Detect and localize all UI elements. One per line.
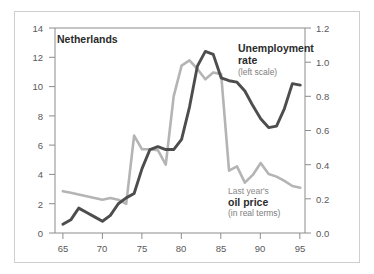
left-axis-tick-label: 0	[21, 229, 43, 239]
left-axis-tick-label: 2	[21, 200, 43, 210]
left-axis-tick-label: 10	[21, 82, 43, 92]
chart-title: Netherlands	[57, 33, 118, 45]
annotation-oil-line1: oil price	[228, 196, 280, 208]
x-axis-tick-label: 70	[92, 244, 112, 254]
right-axis-tick-label: 1.0	[316, 58, 329, 68]
annotation-unemployment-line2: rate	[238, 54, 314, 66]
annotation-oil-terms-note: (in real terms)	[228, 208, 280, 218]
right-axis-tick-label: 0.6	[316, 126, 329, 136]
series-line-oil-price	[63, 60, 300, 204]
x-axis-tick-label: 90	[250, 244, 270, 254]
right-axis-tick-label: 1.2	[316, 24, 329, 34]
annotation-unemployment-line1: Unemployment	[238, 42, 314, 54]
annotation-oil-prefix: Last year's	[228, 186, 280, 196]
right-axis-tick-label: 0.8	[316, 92, 329, 102]
x-axis-tick-label: 85	[211, 244, 231, 254]
x-axis-tick-label: 95	[290, 244, 310, 254]
chart-figure: 14 12 10 8 6 4 2 0 1.2 1.0 0.8 0.6 0.4 0…	[0, 0, 374, 274]
annotation-unemployment-rate: Unemployment rate (left scale)	[238, 42, 314, 77]
left-axis-tick-label: 4	[21, 170, 43, 180]
left-axis-ticks	[49, 28, 55, 233]
right-axis-tick-label: 0.0	[316, 229, 329, 239]
x-axis-tick-label: 80	[171, 244, 191, 254]
x-axis-tick-label: 75	[132, 244, 152, 254]
x-axis-tick-label: 65	[53, 244, 73, 254]
bottom-axis-ticks	[63, 233, 300, 239]
left-axis-tick-label: 6	[21, 141, 43, 151]
annotation-oil-price: Last year's oil price (in real terms)	[228, 186, 280, 218]
left-axis-tick-label: 14	[21, 24, 43, 34]
left-axis-tick-label: 12	[21, 53, 43, 63]
annotation-unemployment-scale-note: (left scale)	[238, 67, 314, 77]
right-axis-tick-label: 0.2	[316, 195, 329, 205]
right-axis-tick-label: 0.4	[316, 161, 329, 171]
left-axis-tick-label: 8	[21, 112, 43, 122]
